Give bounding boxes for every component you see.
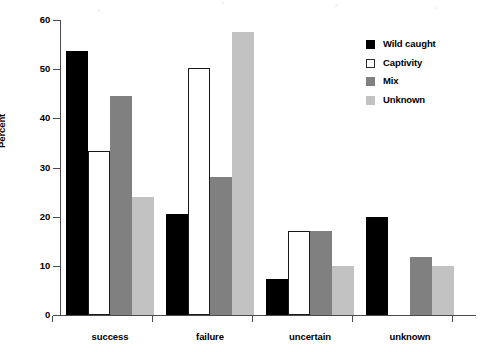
bar-uncertain-wild-caught — [266, 279, 288, 315]
bar-uncertain-mix — [310, 231, 332, 315]
bar-unknown-mix — [410, 257, 432, 316]
y-axis-tick-label: 0 — [24, 310, 50, 319]
bar-chart-figure: Percent 0102030405060 successfailureunce… — [0, 0, 495, 352]
bar-unknown-unknown — [432, 266, 454, 315]
bar-uncertain-captivity — [288, 231, 310, 315]
chart-legend: Wild caughtCaptivityMixUnknown — [366, 38, 490, 112]
bar-failure-mix — [210, 177, 232, 315]
x-axis-tick — [352, 316, 353, 322]
y-axis-tick — [53, 118, 60, 119]
x-axis-label-success: success — [65, 331, 155, 342]
bar-failure-unknown — [232, 32, 254, 315]
legend-item-label: Mix — [383, 75, 399, 86]
bar-success-mix — [110, 96, 132, 315]
legend-item-label: Captivity — [383, 57, 422, 68]
y-axis-tick — [53, 69, 60, 70]
legend-swatch-icon — [366, 96, 375, 105]
y-axis-tick-label: 50 — [24, 64, 50, 73]
y-axis-tick-label: 20 — [24, 212, 50, 221]
y-axis-tick-label: 40 — [24, 113, 50, 122]
y-axis-tick-label: 10 — [24, 261, 50, 270]
x-axis-label-failure: failure — [165, 331, 255, 342]
legend-swatch-icon — [366, 59, 375, 68]
bar-success-captivity — [88, 151, 110, 315]
bar-failure-captivity — [188, 68, 210, 315]
y-axis-title: Percent — [0, 114, 7, 148]
y-axis-tick — [53, 266, 60, 267]
legend-swatch-icon — [366, 77, 375, 86]
legend-item-label: Unknown — [383, 94, 425, 105]
legend-item-label: Wild caught — [383, 38, 436, 49]
x-axis-line — [60, 315, 476, 316]
bar-failure-wild-caught — [166, 214, 188, 315]
y-axis-tick-label: 60 — [24, 15, 50, 24]
legend-item-captivity: Captivity — [366, 57, 490, 76]
scan-noise-artifact — [0, 0, 495, 14]
x-axis-label-unknown: unknown — [365, 331, 455, 342]
y-axis-tick — [53, 20, 60, 21]
y-axis-tick — [53, 315, 60, 316]
legend-swatch-icon — [366, 40, 375, 49]
x-axis-tick — [52, 316, 53, 322]
x-axis-tick — [452, 316, 453, 322]
bar-success-wild-caught — [66, 51, 88, 315]
y-axis-tick — [53, 168, 60, 169]
legend-item-mix: Mix — [366, 75, 490, 94]
legend-item-unknown: Unknown — [366, 94, 490, 113]
y-axis-tick — [53, 217, 60, 218]
bar-unknown-wild-caught — [366, 217, 388, 315]
x-axis-tick — [152, 316, 153, 322]
bar-uncertain-unknown — [332, 266, 354, 315]
x-axis-tick — [252, 316, 253, 322]
bar-success-unknown — [132, 197, 154, 315]
x-axis-label-uncertain: uncertain — [265, 331, 355, 342]
y-axis-tick-label: 30 — [24, 163, 50, 172]
legend-item-wild-caught: Wild caught — [366, 38, 490, 57]
